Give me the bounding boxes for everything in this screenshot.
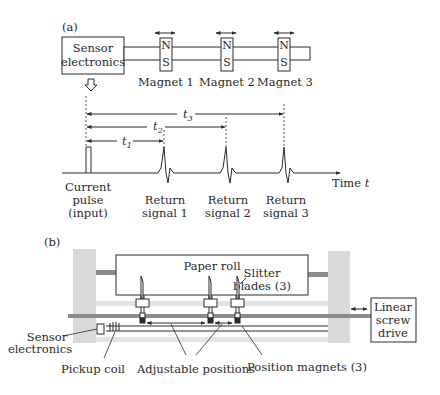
panel-b-label: (b) xyxy=(44,235,60,249)
interval-t1: t1 xyxy=(87,134,163,150)
magnet-2: N S Magnet 2 xyxy=(199,33,255,89)
svg-text:Paper roll: Paper roll xyxy=(183,259,240,273)
svg-text:Return: Return xyxy=(266,193,307,207)
t3-label: t3 xyxy=(183,107,193,123)
return-signal-2-label: Return signal 2 xyxy=(205,193,251,220)
timing-reference-lines xyxy=(86,96,284,148)
sensor-electronics-label-b: Sensor electronics xyxy=(8,330,72,356)
svg-text:signal 2: signal 2 xyxy=(205,206,251,220)
main-shaft xyxy=(68,314,371,318)
svg-text:Linear: Linear xyxy=(374,300,412,314)
magnet-1-south: S xyxy=(162,56,170,69)
pulse-label: Current pulse (input) xyxy=(65,180,111,220)
time-waveform xyxy=(62,147,340,183)
roll-axle-right xyxy=(308,272,328,277)
frame-left-post xyxy=(73,249,96,343)
magnet-3-north: N xyxy=(279,39,289,52)
return-signal-3-label: Return signal 3 xyxy=(263,193,309,220)
svg-text:Current: Current xyxy=(65,180,111,194)
t1-label: t1 xyxy=(122,134,132,150)
pickup-coil xyxy=(97,322,119,334)
magnet-2-north: N xyxy=(222,39,232,52)
adjustable-positions-label: Adjustable positions xyxy=(136,362,255,376)
sensor-box-line2: electronics xyxy=(61,55,125,69)
magnet-3-label: Magnet 3 xyxy=(257,75,313,89)
time-axis-label: Time t xyxy=(332,176,370,190)
magnetostrictive-sensor-figure: (a) Sensor electronics N S Magnet 1 N S … xyxy=(0,0,440,395)
sensor-box-line1: Sensor xyxy=(73,41,114,55)
hollow-down-arrow-icon xyxy=(85,79,97,91)
frame-right-post xyxy=(328,251,350,343)
svg-text:signal 1: signal 1 xyxy=(142,206,188,220)
svg-text:electronics: electronics xyxy=(8,342,72,356)
magnet-2-label: Magnet 2 xyxy=(199,75,255,89)
panel-a: (a) Sensor electronics N S Magnet 1 N S … xyxy=(61,20,370,220)
svg-text:pulse: pulse xyxy=(72,193,103,207)
return-signal-1-label: Return signal 1 xyxy=(142,193,188,220)
magnet-3-south: S xyxy=(280,56,288,69)
panel-b: (b) Paper roll Slitter blades (3) xyxy=(8,235,416,376)
svg-text:blades (3): blades (3) xyxy=(233,279,291,293)
roll-axle-left xyxy=(96,270,116,275)
magnet-1-label: Magnet 1 xyxy=(138,75,194,89)
interval-t3: t3 xyxy=(87,107,283,123)
svg-text:Return: Return xyxy=(145,193,186,207)
pickup-coil-label: Pickup coil xyxy=(61,362,125,376)
magnet-1: N S Magnet 1 xyxy=(138,33,194,89)
panel-a-label: (a) xyxy=(62,20,78,34)
magnet-2-south: S xyxy=(223,56,231,69)
lower-guide-rod xyxy=(96,337,328,342)
linear-screw-drive: Linear screw drive xyxy=(350,298,416,342)
svg-text:Slitter: Slitter xyxy=(244,266,281,280)
svg-text:Return: Return xyxy=(208,193,249,207)
magnet-3: N S Magnet 3 xyxy=(257,33,313,89)
svg-text:signal 3: signal 3 xyxy=(263,206,309,220)
svg-text:screw: screw xyxy=(376,313,411,327)
interval-t2: t2 xyxy=(87,119,225,135)
svg-text:(input): (input) xyxy=(68,206,107,220)
magnet-1-north: N xyxy=(161,39,171,52)
position-magnets-label: Position magnets (3) xyxy=(247,360,367,374)
sensor-electronics-box-a: Sensor electronics xyxy=(61,37,125,74)
t2-label: t2 xyxy=(153,119,163,135)
svg-text:drive: drive xyxy=(378,326,408,340)
